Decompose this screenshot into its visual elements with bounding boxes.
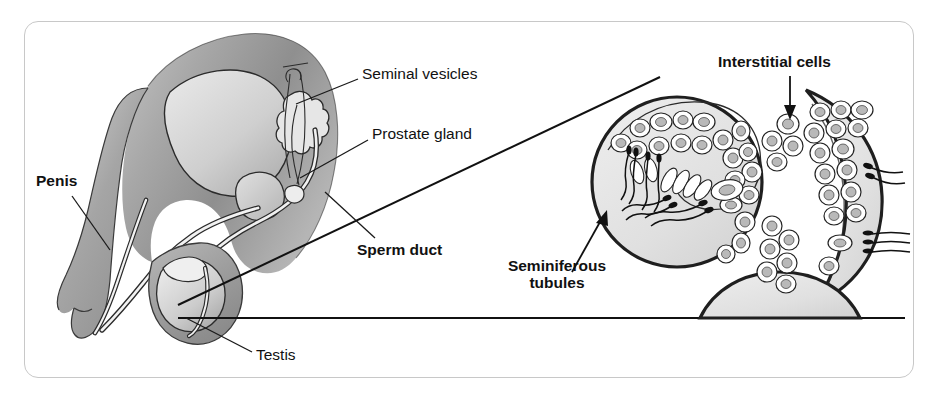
interstitial-cell-cluster-upper bbox=[762, 114, 803, 171]
ejaculatory-bulb bbox=[285, 185, 304, 203]
label-sperm-duct: Sperm duct bbox=[357, 241, 442, 258]
interstitial-cell-cluster-lower bbox=[757, 216, 799, 293]
label-seminiferous-tubules: Seminiferous tubules bbox=[477, 257, 637, 292]
label-interstitial-cells: Interstitial cells bbox=[718, 53, 831, 70]
label-seminal-vesicles: Seminal vesicles bbox=[362, 65, 477, 82]
label-prostate-gland: Prostate gland bbox=[372, 125, 472, 142]
anatomy-figure: Penis Seminal vesicles Prostate gland Sp… bbox=[0, 0, 939, 405]
micrograph-view bbox=[592, 90, 910, 318]
label-testis: Testis bbox=[256, 346, 296, 363]
anatomy-sagittal-view bbox=[57, 34, 337, 345]
label-penis: Penis bbox=[36, 172, 77, 189]
